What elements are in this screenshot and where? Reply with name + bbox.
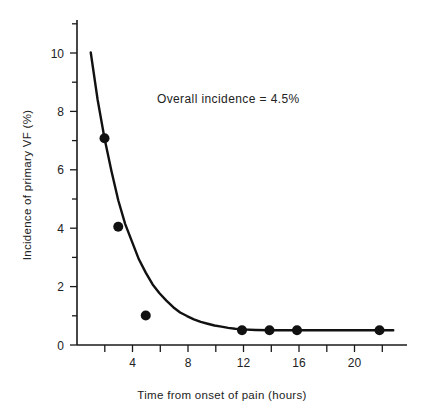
overall-incidence-annotation: Overall incidence = 4.5% xyxy=(157,92,300,106)
x-tick-label: 4 xyxy=(129,356,136,370)
y-axis-title: Incidence of primary VF (%) xyxy=(21,110,33,261)
chart-figure: 0 2 4 6 8 10 4 8 12 16 20 Overall incide… xyxy=(0,0,430,415)
x-tick-label: 8 xyxy=(185,356,192,370)
y-tick-label: 8 xyxy=(57,105,64,119)
y-tick-label: 2 xyxy=(57,280,64,294)
chart-background xyxy=(0,0,430,415)
x-tick-label: 12 xyxy=(237,356,251,370)
data-point xyxy=(113,222,123,232)
data-point xyxy=(100,133,110,143)
data-point xyxy=(292,325,302,335)
x-axis-title: Time from onset of pain (hours) xyxy=(137,389,306,401)
data-point xyxy=(375,325,385,335)
data-point xyxy=(265,325,275,335)
y-tick-label: 0 xyxy=(57,339,64,353)
y-tick-label: 6 xyxy=(57,163,64,177)
x-tick-label: 16 xyxy=(292,356,306,370)
data-point xyxy=(237,325,247,335)
x-tick-label: 20 xyxy=(348,356,362,370)
y-tick-label: 10 xyxy=(51,47,65,61)
data-point xyxy=(141,310,151,320)
y-tick-label: 4 xyxy=(57,222,64,236)
